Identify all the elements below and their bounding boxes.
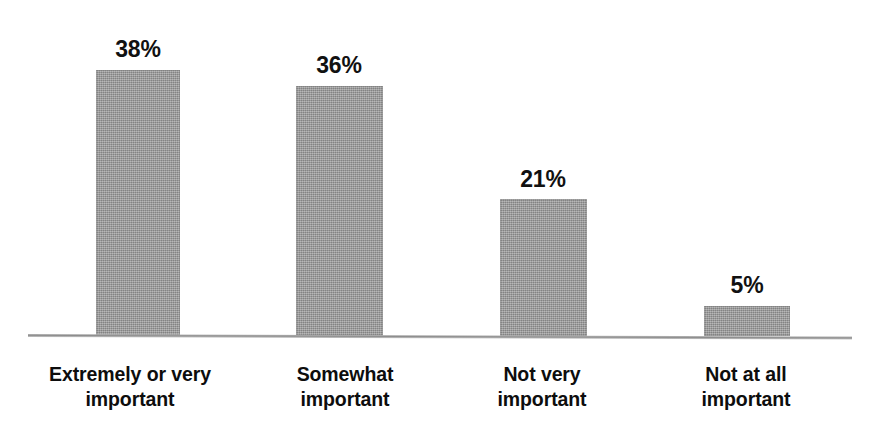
category-label-line-1: Not very <box>462 362 622 387</box>
bar-not-very-important[interactable] <box>500 199 587 336</box>
category-label-line-2: important <box>30 387 230 412</box>
plot-area: 38% 36% 21% 5% <box>0 0 879 340</box>
category-label-line-1: Extremely or very <box>30 362 230 387</box>
value-label-extremely-or-very-important: 38% <box>88 36 188 62</box>
bar-not-at-all-important[interactable] <box>704 306 790 336</box>
category-label-line-1: Somewhat <box>265 362 425 387</box>
category-label-extremely-or-very-important: Extremely or very important <box>30 362 230 412</box>
value-label-somewhat-important: 36% <box>289 52 389 78</box>
category-label-line-2: important <box>666 387 826 412</box>
bar-chart: 38% 36% 21% 5% Extremely or very importa… <box>0 0 879 447</box>
category-label-not-very-important: Not very important <box>462 362 622 412</box>
category-label-somewhat-important: Somewhat important <box>265 362 425 412</box>
value-label-not-very-important: 21% <box>493 166 593 192</box>
category-label-not-at-all-important: Not at all important <box>666 362 826 412</box>
value-label-not-at-all-important: 5% <box>697 272 797 298</box>
category-label-line-2: important <box>462 387 622 412</box>
bar-extremely-or-very-important[interactable] <box>96 70 180 336</box>
category-label-line-1: Not at all <box>666 362 826 387</box>
category-label-line-2: important <box>265 387 425 412</box>
bar-somewhat-important[interactable] <box>296 86 383 336</box>
